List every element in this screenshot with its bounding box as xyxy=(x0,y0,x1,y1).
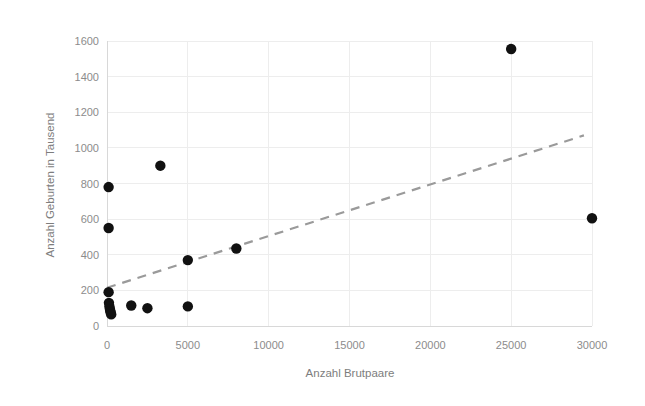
y-tick-label: 400 xyxy=(81,249,99,261)
x-tick-label: 30000 xyxy=(577,339,608,351)
y-axis-title: Anzahl Geburten in Tausend xyxy=(44,113,56,258)
data-point xyxy=(142,303,152,313)
data-point xyxy=(506,44,516,54)
data-point xyxy=(126,300,136,310)
y-axis-tick-labels: 02004006008001000120014001600 xyxy=(75,35,99,332)
y-tick-label: 0 xyxy=(93,320,99,332)
data-point xyxy=(183,301,193,311)
y-tick-label: 1400 xyxy=(75,71,99,83)
data-point xyxy=(103,287,113,297)
x-tick-label: 5000 xyxy=(176,339,200,351)
y-tick-label: 1000 xyxy=(75,142,99,154)
scatter-plot: 02004006008001000120014001600 0500010000… xyxy=(0,0,645,406)
y-tick-label: 800 xyxy=(81,178,99,190)
trendline-path xyxy=(107,135,584,287)
data-point xyxy=(231,243,241,253)
data-points xyxy=(103,44,597,320)
data-point xyxy=(155,160,165,170)
data-point xyxy=(103,182,113,192)
y-tick-label: 600 xyxy=(81,213,99,225)
x-tick-label: 10000 xyxy=(253,339,284,351)
trendline xyxy=(107,135,584,287)
data-point xyxy=(103,223,113,233)
data-point xyxy=(587,213,597,223)
x-tick-label: 15000 xyxy=(334,339,365,351)
data-point xyxy=(106,309,116,319)
x-axis-title: Anzahl Brutpaare xyxy=(306,367,395,379)
x-tick-label: 20000 xyxy=(415,339,446,351)
y-tick-label: 1600 xyxy=(75,35,99,47)
x-axis-tick-labels: 050001000015000200002500030000 xyxy=(104,339,607,351)
chart-figure: 02004006008001000120014001600 0500010000… xyxy=(0,0,645,406)
x-tick-label: 0 xyxy=(104,339,110,351)
x-tick-label: 25000 xyxy=(496,339,527,351)
y-tick-label: 200 xyxy=(81,284,99,296)
gridlines xyxy=(107,41,592,326)
data-point xyxy=(183,255,193,265)
y-tick-label: 1200 xyxy=(75,106,99,118)
